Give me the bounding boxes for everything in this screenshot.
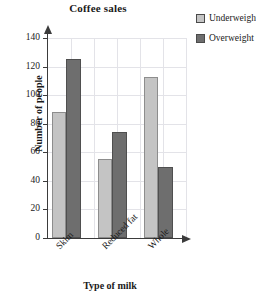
chart-title: Coffee sales	[0, 2, 196, 14]
legend-item-underweight: Underweight	[196, 13, 256, 23]
plot-area	[48, 38, 186, 238]
y-axis-tick	[43, 124, 48, 125]
bar-skim-underweight	[52, 112, 67, 238]
y-axis-tick	[43, 38, 48, 39]
x-axis-title: Type of milk	[30, 280, 190, 291]
y-axis-tick	[43, 152, 48, 153]
legend-swatch-overweight-icon	[196, 34, 205, 43]
gridline-vertical	[186, 38, 187, 238]
y-axis-tick-label: 0	[6, 232, 40, 242]
coffee-sales-bar-chart: Coffee sales Underweight Overweight 0204…	[0, 0, 256, 298]
x-axis-arrow-icon	[182, 235, 191, 243]
gridline-vertical	[94, 38, 95, 238]
legend-item-overweight: Overweight	[196, 33, 256, 43]
legend-label-underweight: Underweight	[209, 13, 256, 23]
y-axis-tick-label: 40	[6, 175, 40, 185]
y-axis-tick-label: 140	[6, 32, 40, 42]
bar-skim-overweight	[66, 59, 81, 238]
bar-reduced-fat-underweight	[98, 159, 113, 238]
legend-label-overweight: Overweight	[209, 33, 254, 43]
y-axis-tick	[43, 181, 48, 182]
y-axis-line	[47, 32, 48, 239]
y-axis-arrow-icon	[44, 25, 52, 34]
bar-whole-underweight	[144, 77, 159, 238]
y-axis-tick	[43, 95, 48, 96]
y-axis-tick-label: 20	[6, 203, 40, 213]
y-axis-title: Number of people	[33, 54, 44, 174]
gridline-vertical	[140, 38, 141, 238]
y-axis-tick	[43, 238, 48, 239]
y-axis-tick	[43, 67, 48, 68]
y-axis-tick	[43, 209, 48, 210]
legend-swatch-underweight-icon	[196, 14, 205, 23]
chart-legend: Underweight Overweight	[196, 13, 256, 43]
